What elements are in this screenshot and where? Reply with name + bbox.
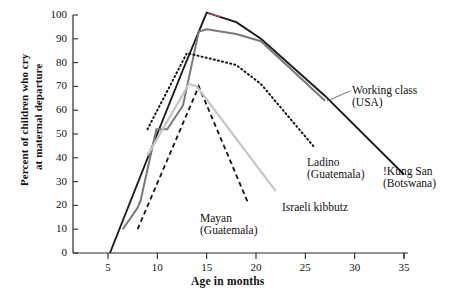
x-tick-label: 10 — [137, 261, 177, 273]
y-tick-label: 40 — [0, 151, 67, 163]
y-tick-label: 50 — [0, 127, 67, 139]
y-tick-label: 100 — [0, 8, 67, 20]
y-tick-label: 70 — [0, 79, 67, 91]
y-tick-label: 80 — [0, 56, 67, 68]
x-tick-label: 15 — [187, 261, 227, 273]
annotation-mayan-line-1: Mayan — [200, 212, 257, 224]
x-tick-label: 5 — [88, 261, 128, 273]
annotation-working-class-line-1: Working class — [352, 84, 417, 96]
annotation-ladino-line-2: (Guatemala) — [307, 168, 364, 180]
x-tick-label: 30 — [335, 261, 375, 273]
y-tick-label: 0 — [0, 246, 67, 258]
chart-figure: Percent of children who cry at maternal … — [0, 0, 450, 295]
y-tick-label: 10 — [0, 222, 67, 234]
annotation-mayan: Mayan (Guatemala) — [200, 212, 257, 237]
annotation-kung-san: !Kung San (Botswana) — [383, 165, 436, 190]
annotation-kung-san-line-2: (Botswana) — [383, 177, 436, 189]
annotation-ladino-line-1: Ladino — [307, 156, 364, 168]
annotation-kung-san-line-1: !Kung San — [383, 165, 436, 177]
y-tick-label: 20 — [0, 198, 67, 210]
y-tick-label: 90 — [0, 32, 67, 44]
x-tick-label: 35 — [384, 261, 424, 273]
y-tick-label: 30 — [0, 175, 67, 187]
annotation-israeli-kibbutz: Israeli kibbutz — [282, 201, 348, 213]
crying-by-age-line-chart — [0, 0, 450, 295]
annotation-working-class-line-2: (USA) — [352, 96, 417, 108]
x-tick-label: 25 — [285, 261, 325, 273]
annotation-ladino: Ladino (Guatemala) — [307, 156, 364, 181]
y-tick-label: 60 — [0, 103, 67, 115]
y-axis-title-line-1: Percent of children who cry — [18, 54, 30, 186]
annotation-mayan-line-2: (Guatemala) — [200, 224, 257, 236]
x-tick-label: 20 — [236, 261, 276, 273]
annotation-israeli-kibbutz-line-1: Israeli kibbutz — [282, 201, 348, 213]
annotation-working-class: Working class (USA) — [352, 84, 417, 109]
x-axis-title: Age in months — [191, 275, 265, 287]
